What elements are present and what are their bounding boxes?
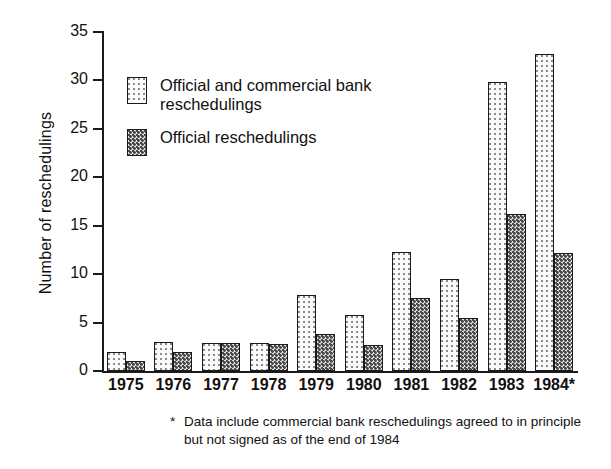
bar-1975-series-1 [126, 361, 145, 371]
bar-1978-series-0 [250, 343, 269, 371]
x-tick-label-1976: 1976 [150, 376, 198, 394]
x-tick-label-1983: 1983 [483, 376, 531, 394]
chart-footnote: * Data include commercial bank reschedul… [170, 413, 600, 449]
y-tick-mark [93, 225, 102, 227]
x-tick-label-1981: 1981 [388, 376, 436, 394]
x-tick-label-1975: 1975 [102, 376, 150, 394]
y-tick-label: 0 [48, 362, 88, 378]
legend-swatch-light-dotted-icon [127, 77, 147, 104]
x-tick-label-1977: 1977 [197, 376, 245, 394]
legend-entry-official-and-commercial: Official and commercial bank reschedulin… [127, 76, 427, 115]
y-tick-mark [93, 370, 102, 372]
x-axis-line [102, 371, 578, 373]
bar-1977-series-0 [202, 343, 221, 371]
bar-1981-series-0 [392, 252, 411, 371]
x-tick-label-1982: 1982 [435, 376, 483, 394]
y-tick-label: 35 [48, 23, 88, 39]
y-tick-mark [93, 79, 102, 81]
y-tick-label: 5 [48, 314, 88, 330]
x-axis-labels: 1975197619771978197919801981198219831984… [102, 376, 578, 402]
bar-1976-series-0 [154, 342, 173, 371]
y-tick-label: 30 [48, 71, 88, 87]
y-tick-label: 15 [48, 217, 88, 233]
x-tick-label-1980: 1980 [340, 376, 388, 394]
y-tick-mark [93, 31, 102, 33]
bar-1975-series-0 [107, 352, 126, 371]
bar-1979-series-0 [297, 295, 316, 371]
y-tick-mark [93, 273, 102, 275]
y-tick-mark [93, 128, 102, 130]
legend-entry-official: Official reschedulings [127, 128, 427, 156]
bar-1981-series-1 [411, 298, 430, 371]
bar-1980-series-1 [364, 345, 383, 371]
x-tick-label-1978: 1978 [245, 376, 293, 394]
bar-1977-series-1 [221, 343, 240, 371]
y-tick-label: 20 [48, 168, 88, 184]
bar-1978-series-1 [269, 344, 288, 371]
x-tick-label-1984: 1984* [530, 376, 578, 394]
bar-1976-series-1 [173, 352, 192, 371]
chart-legend: Official and commercial bank reschedulin… [127, 76, 427, 169]
footnote-marker: * [170, 413, 175, 431]
y-tick-mark [93, 176, 102, 178]
bar-1983-series-1 [507, 214, 526, 371]
footnote-text: Data include commercial bank reschedulin… [184, 413, 600, 449]
x-tick-label-1979: 1979 [292, 376, 340, 394]
bar-1983-series-0 [488, 82, 507, 371]
bar-1980-series-0 [345, 315, 364, 371]
bar-1984-series-1 [554, 253, 573, 371]
y-tick-label: 25 [48, 120, 88, 136]
y-tick-mark [93, 322, 102, 324]
bar-1979-series-1 [316, 334, 335, 371]
legend-swatch-dark-dotted-icon [127, 129, 147, 156]
y-axis-ticks: 35302520151050 [0, 0, 102, 469]
y-tick-label: 10 [48, 265, 88, 281]
bar-1982-series-1 [459, 318, 478, 371]
legend-label-official-and-commercial: Official and commercial bank reschedulin… [160, 76, 410, 115]
bar-chart-figure: Number of reschedulings 35302520151050 1… [0, 0, 611, 469]
legend-label-official: Official reschedulings [160, 128, 317, 147]
bar-1982-series-0 [440, 279, 459, 371]
bar-1984-series-0 [535, 54, 554, 371]
